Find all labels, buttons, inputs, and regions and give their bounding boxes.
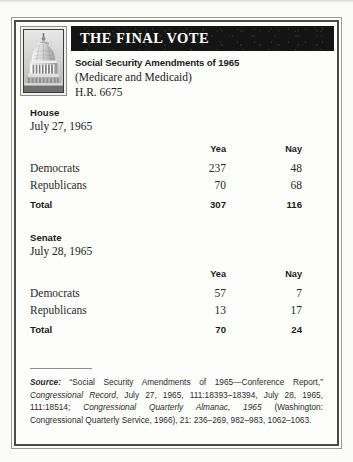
total-nay: 116 [226,194,302,213]
total-yea: 70 [150,319,226,338]
card-inner-frame: THE FINAL VOTE Social Security Amendment… [14,20,339,446]
source-italic-1: Congressional Record [30,390,116,400]
total-label: Total [30,194,150,213]
source-part-1: “Social Security Amendments of 1965—Conf… [61,377,323,387]
column-header-nay: Nay [226,143,302,160]
source-text: Source: “Social Security Amendments of 1… [30,376,323,426]
chamber-date: July 28, 1965 [30,244,325,259]
card-body: House July 27, 1965 Yea Nay Democrats [16,96,337,444]
row-party: Republicans [30,302,150,319]
bill-heading: Social Security Amendments of 1965 (Medi… [75,56,329,100]
row-yea: 13 [150,302,226,319]
table-total-row: Total 70 24 [30,319,302,338]
bill-subtitle: (Medicare and Medicaid) [75,70,329,85]
row-nay: 68 [226,177,302,194]
column-header-yea: Yea [150,268,226,285]
table-row: Democrats 57 7 [30,285,302,302]
table-header-row: Yea Nay [30,143,302,160]
row-party: Republicans [30,177,150,194]
table-row: Republicans 70 68 [30,177,302,194]
source-divider [30,368,92,369]
bill-name: Social Security Amendments of 1965 [75,56,329,70]
page-title: THE FINAL VOTE [71,30,209,47]
chamber-name: House [30,106,325,119]
chamber-section-house: House July 27, 1965 Yea Nay Democrats [30,106,325,213]
column-header-nay: Nay [226,268,302,285]
row-nay: 7 [226,285,302,302]
vote-table-house: Yea Nay Democrats 237 48 Republicans 70 [30,143,302,213]
row-yea: 237 [150,160,226,177]
table-header-row: Yea Nay [30,268,302,285]
row-yea: 57 [150,285,226,302]
chamber-section-senate: Senate July 28, 1965 Yea Nay Democrats [30,231,325,338]
total-nay: 24 [226,319,302,338]
total-label: Total [30,319,150,338]
chamber-name: Senate [30,231,325,244]
row-nay: 17 [226,302,302,319]
table-row: Democrats 237 48 [30,160,302,177]
column-header-party [30,268,150,285]
chamber-date: July 27, 1965 [30,119,325,134]
card-title-bar: THE FINAL VOTE [71,26,334,51]
source-label: Source: [30,377,61,387]
row-nay: 48 [226,160,302,177]
column-header-party [30,143,150,160]
row-yea: 70 [150,177,226,194]
capitol-dome-icon [23,29,64,93]
row-party: Democrats [30,285,150,302]
row-party: Democrats [30,160,150,177]
final-vote-card: THE FINAL VOTE Social Security Amendment… [11,17,342,449]
column-header-yea: Yea [150,143,226,160]
capitol-dome-image-frame [20,26,67,96]
page-top-edge [0,0,353,3]
source-italic-2: Congressional Quarterly Almanac, 1965 [83,402,261,412]
vote-table-senate: Yea Nay Democrats 57 7 Republicans 13 [30,268,302,338]
source-note: Source: “Social Security Amendments of 1… [30,368,323,426]
total-yea: 307 [150,194,226,213]
card-header: THE FINAL VOTE Social Security Amendment… [16,22,337,92]
table-row: Republicans 13 17 [30,302,302,319]
table-total-row: Total 307 116 [30,194,302,213]
